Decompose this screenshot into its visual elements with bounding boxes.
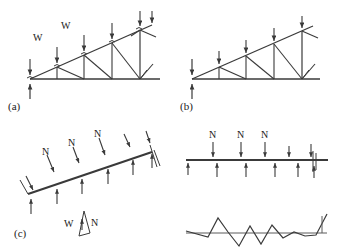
n-label-c-2: N bbox=[68, 137, 75, 148]
truss-a-diagonal-3 bbox=[112, 43, 140, 79]
beam-c-end-tick-2 bbox=[154, 150, 160, 166]
panel-d-reactions bbox=[188, 163, 314, 178]
triangle-label-w: W bbox=[64, 218, 74, 229]
n-arrow-c-4 bbox=[99, 138, 105, 155]
engineering-diagram: W W (a) (b) bbox=[0, 0, 342, 251]
truss-a-apex-stub-right bbox=[140, 30, 156, 37]
panel-b-truss bbox=[192, 26, 320, 79]
truss-b-diagonal-1 bbox=[219, 67, 246, 79]
n-label-d-3: N bbox=[261, 129, 268, 140]
n-arrow-c-3 bbox=[73, 147, 79, 163]
triangle-label-n: N bbox=[91, 217, 98, 228]
n-label-d-2: N bbox=[237, 129, 244, 140]
truss-b-diagonal-2 bbox=[246, 56, 274, 79]
triangle-side-right bbox=[84, 211, 90, 233]
figure-root: W W (a) (b) bbox=[0, 0, 342, 251]
panel-d-beam bbox=[186, 151, 328, 172]
n-arrow-c-6 bbox=[146, 131, 150, 143]
n-label-d-1: N bbox=[209, 129, 216, 140]
panel-label-b: (b) bbox=[180, 100, 193, 113]
truss-b-apex-stub bbox=[302, 31, 318, 38]
panel-c-force-triangle bbox=[79, 211, 90, 236]
panel-a-loads bbox=[30, 11, 152, 75]
n-label-c-1: N bbox=[42, 146, 49, 157]
truss-b-apex-brace-2 bbox=[302, 70, 309, 79]
n-arrow-c-1 bbox=[26, 176, 33, 190]
panel-a-truss bbox=[30, 25, 160, 79]
panel-c-normal-forces bbox=[26, 131, 150, 190]
triangle-base bbox=[79, 233, 90, 236]
n-label-c-3: N bbox=[94, 128, 101, 139]
zigzag-polygon bbox=[186, 214, 327, 246]
panel-c-reactions bbox=[31, 154, 152, 214]
n-arrow-c-2 bbox=[47, 155, 54, 172]
panel-d-loads bbox=[213, 142, 311, 157]
truss-b-diagonal-3 bbox=[274, 44, 302, 79]
panel-d-zigzag-chart bbox=[186, 214, 327, 246]
truss-a-diagonal-1 bbox=[57, 67, 84, 79]
load-label-a-w2: W bbox=[61, 20, 71, 31]
truss-a-apex-brace-2 bbox=[140, 70, 147, 79]
panel-c-beam bbox=[20, 145, 160, 194]
beam-c-left-stub bbox=[20, 180, 28, 194]
truss-a-diagonal-2 bbox=[84, 55, 112, 79]
truss-b-top-chord bbox=[192, 26, 313, 79]
panel-label-c: (c) bbox=[14, 227, 27, 240]
load-label-a-w1: W bbox=[33, 32, 43, 43]
n-arrow-c-5 bbox=[124, 134, 130, 147]
panel-b-loads bbox=[219, 16, 302, 64]
panel-label-a: (a) bbox=[8, 100, 21, 113]
